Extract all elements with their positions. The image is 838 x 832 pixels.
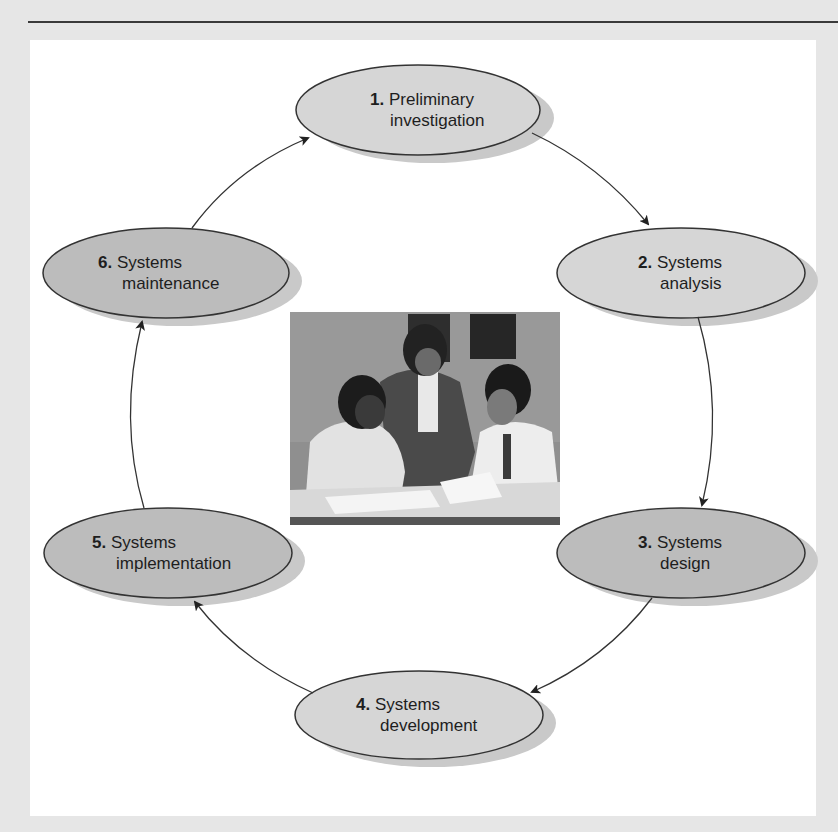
stage-6-number: 6. xyxy=(98,253,112,272)
stage-2-number: 2. xyxy=(638,253,652,272)
stage-3-label: 3. Systems design xyxy=(638,532,722,574)
stage-5-number: 5. xyxy=(92,533,106,552)
arrow-5-to-6 xyxy=(130,322,144,508)
stage-2-line1: Systems xyxy=(657,253,722,272)
stage-3-number: 3. xyxy=(638,533,652,552)
arrow-3-to-4 xyxy=(532,598,652,692)
stage-4-line1: Systems xyxy=(375,695,440,714)
stage-1-number: 1. xyxy=(370,90,384,109)
stage-6-label: 6. Systems maintenance xyxy=(98,252,219,294)
stage-2-label: 2. Systems analysis xyxy=(638,252,722,294)
arrow-4-to-5 xyxy=(195,602,313,693)
stage-6-line1: Systems xyxy=(117,253,182,272)
stage-3-line1: Systems xyxy=(657,533,722,552)
stage-3-line2: design xyxy=(638,553,722,574)
arrow-2-to-3 xyxy=(698,317,713,505)
stage-4-line2: development xyxy=(356,715,477,736)
stage-5-label: 5. Systems implementation xyxy=(92,532,231,574)
arrow-6-to-1 xyxy=(192,138,308,228)
stage-5-line2: implementation xyxy=(92,553,231,574)
stage-5-line1: Systems xyxy=(111,533,176,552)
stage-1-label: 1. Preliminary investigation xyxy=(370,89,485,131)
arrow-1-to-2 xyxy=(532,133,648,224)
stage-2-line2: analysis xyxy=(638,273,722,294)
stage-1-line2: investigation xyxy=(370,110,485,131)
stage-1-line1: Preliminary xyxy=(389,90,474,109)
stage-6-line2: maintenance xyxy=(98,273,219,294)
stage-4-label: 4. Systems development xyxy=(356,694,477,736)
stage-4-number: 4. xyxy=(356,695,370,714)
team-photo xyxy=(290,312,560,525)
